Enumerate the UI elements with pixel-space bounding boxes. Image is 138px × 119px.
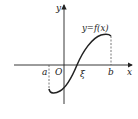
point-xi-label: ξ (80, 69, 86, 79)
curve-label: y=f(x) (81, 23, 109, 33)
y-axis-label: y (55, 3, 62, 13)
point-a-label: a (42, 67, 47, 77)
function-curve (49, 34, 111, 93)
origin-label: O (55, 67, 63, 77)
point-b-label: b (108, 67, 114, 77)
x-axis-label: x (127, 67, 132, 77)
function-graph-diagram: y x O a b ξ y=f(x) (0, 0, 138, 119)
